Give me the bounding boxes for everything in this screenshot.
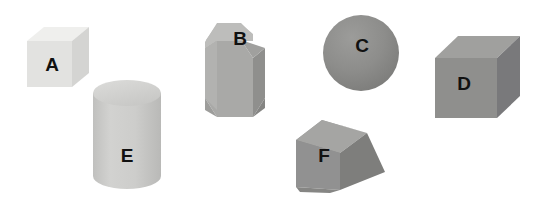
shapes-scene: A B C D bbox=[0, 0, 544, 209]
shape-c-body bbox=[323, 15, 399, 91]
shape-f-cube-rotated: F bbox=[296, 120, 385, 193]
shape-b-left-bevel-face bbox=[205, 40, 217, 110]
shape-a-cube: A bbox=[27, 27, 89, 87]
shape-e-body bbox=[93, 93, 161, 189]
shape-e-top-face bbox=[93, 80, 161, 106]
shapes-canvas: A B C D bbox=[0, 0, 544, 209]
shape-e-cylinder: E bbox=[93, 80, 161, 189]
shape-d-front-face bbox=[435, 58, 497, 118]
shape-d-cube: D bbox=[435, 36, 520, 118]
shape-a-front-face bbox=[27, 41, 72, 87]
shape-c-sphere: C bbox=[323, 15, 399, 91]
shape-b-octagonal-prism: B bbox=[205, 23, 265, 117]
